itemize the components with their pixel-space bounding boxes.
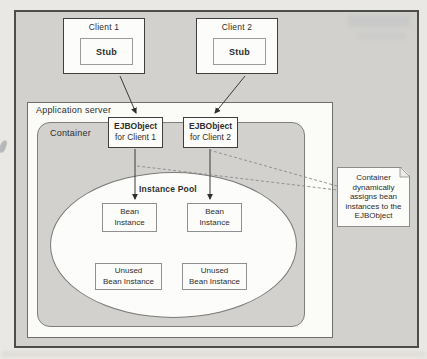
container-label: Container — [50, 128, 91, 138]
unused-bean-instance-2-box: Unused Bean Instance — [182, 263, 247, 290]
ejbobject-1-name: EJBObject — [109, 121, 162, 132]
ejbobject-client-2-box: EJBObject for Client 2 — [183, 117, 238, 148]
bean-instance-2-box: Bean Instance — [187, 203, 242, 232]
ejbobject-1-subtitle: for Client 1 — [109, 132, 162, 143]
ejbobject-client-1-box: EJBObject for Client 1 — [108, 117, 163, 148]
client-1-stub-box: Stub — [80, 38, 133, 65]
scanned-page: Client 1 Stub Client 2 Stub Application … — [0, 0, 427, 359]
note-folded-corner-icon — [398, 164, 412, 178]
client-2-title: Client 2 — [197, 19, 277, 32]
client-2-stub-label: Stub — [229, 47, 250, 57]
instance-pool-title: Instance Pool — [108, 184, 228, 194]
client-1-stub-label: Stub — [96, 47, 117, 57]
scan-bleedthrough-artifact — [2, 351, 425, 357]
client-1-title: Client 1 — [64, 19, 144, 32]
pen-mark-artifact — [0, 139, 8, 153]
unused-bean-instance-1-box: Unused Bean Instance — [95, 263, 162, 290]
application-server-label: Application server — [36, 105, 111, 115]
ejbobject-2-subtitle: for Client 2 — [184, 132, 237, 143]
client-2-stub-box: Stub — [213, 38, 266, 65]
scan-bleedthrough-artifact — [348, 15, 410, 27]
ejbobject-2-name: EJBObject — [184, 121, 237, 132]
scan-bleedthrough-artifact — [358, 32, 406, 40]
bean-instance-1-box: Bean Instance — [102, 203, 157, 232]
